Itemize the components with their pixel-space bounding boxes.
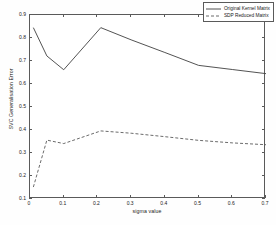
y-tick (29, 83, 32, 84)
legend-solid-line-icon (206, 6, 221, 12)
plot-area (29, 14, 265, 198)
x-tick (130, 195, 131, 198)
x-tick-top (164, 14, 165, 17)
x-tick (231, 195, 232, 198)
y-tick-label: 0.9 (8, 11, 26, 17)
y-tick (29, 106, 32, 107)
x-tick-top (96, 14, 97, 17)
x-tick-label: 0.1 (59, 200, 66, 206)
y-tick-label: 0.1 (8, 195, 26, 201)
legend-label: Original Kernel Matrix (224, 6, 270, 12)
y-tick-right (262, 152, 265, 153)
chart-legend: Original Kernel Matrix SDP Reduced Matri… (203, 2, 274, 22)
chart-figure: 00.10.20.30.40.50.60.7 0.10.20.30.40.50.… (0, 0, 276, 225)
x-tick-label: 0.2 (93, 200, 100, 206)
y-tick-right (262, 106, 265, 107)
x-tick (164, 195, 165, 198)
x-tick-label: 0.7 (262, 200, 269, 206)
y-tick-label: 0.2 (8, 172, 26, 178)
y-tick-right (262, 129, 265, 130)
x-tick-label: 0 (28, 200, 31, 206)
x-tick-label: 0.3 (127, 200, 134, 206)
series-original-kernel-matrix (33, 28, 266, 74)
y-tick (29, 198, 32, 199)
y-tick (29, 175, 32, 176)
y-tick-right (262, 37, 265, 38)
x-tick-top (130, 14, 131, 17)
x-axis-title: sigma value (29, 208, 265, 214)
y-tick (29, 14, 32, 15)
x-tick-label: 0.4 (160, 200, 167, 206)
legend-item-sdp-reduced-matrix: SDP Reduced Matrix (206, 12, 270, 19)
y-tick (29, 129, 32, 130)
y-tick-right (262, 175, 265, 176)
x-tick (265, 195, 266, 198)
y-tick-right (262, 198, 265, 199)
x-tick-top (198, 14, 199, 17)
y-tick-label: 0.8 (8, 34, 26, 40)
x-tick (96, 195, 97, 198)
legend-label: SDP Reduced Matrix (224, 13, 269, 19)
x-tick-label: 0.6 (228, 200, 235, 206)
y-tick (29, 60, 32, 61)
y-tick (29, 152, 32, 153)
y-tick-right (262, 83, 265, 84)
y-tick-right (262, 60, 265, 61)
x-tick (198, 195, 199, 198)
y-axis-title: SVC Generalisation Error (8, 44, 14, 154)
legend-item-original-kernel-matrix: Original Kernel Matrix (206, 5, 270, 12)
x-tick-label: 0.5 (194, 200, 201, 206)
x-tick (63, 195, 64, 198)
legend-dashed-line-icon (206, 13, 221, 19)
y-tick (29, 37, 32, 38)
series-sdp-reduced-matrix (33, 131, 266, 187)
x-tick-top (63, 14, 64, 17)
plot-lines (30, 15, 266, 199)
